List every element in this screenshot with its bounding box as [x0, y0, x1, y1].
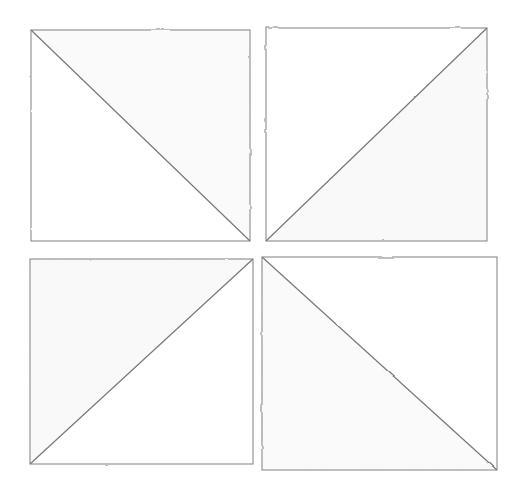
pinwheel-diagram	[0, 0, 516, 488]
figure-canvas	[0, 0, 516, 488]
